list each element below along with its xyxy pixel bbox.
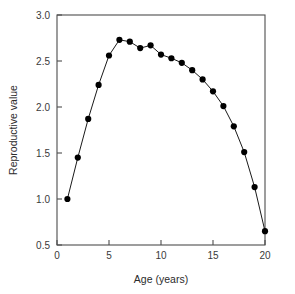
data-point [168,55,174,61]
data-point [106,52,112,58]
data-point [231,123,237,129]
chart-figure: 0.51.01.52.02.53.0 05101520 Reproductive… [0,0,295,294]
data-point [200,76,206,82]
y-tick-label: 3.0 [36,10,50,21]
data-point [85,116,91,122]
data-point [241,149,247,155]
data-point [148,42,154,48]
data-point [137,45,143,51]
data-point [179,60,185,66]
y-tick-label: 2.5 [36,56,50,67]
y-tick-label: 1.0 [36,194,50,205]
y-axis-title: Reproductive value [7,85,19,175]
data-point [262,228,268,234]
data-point [127,39,133,45]
data-point [210,88,216,94]
data-point [75,155,81,161]
x-tick-label: 0 [54,250,60,261]
x-tick-label: 15 [207,250,219,261]
y-tick-label: 0.5 [36,240,50,251]
y-tick-label: 1.5 [36,148,50,159]
x-tick-label: 10 [155,250,167,261]
data-series-line [67,40,265,231]
x-axis-title: Age (years) [134,273,188,285]
reproductive-value-line-chart: 0.51.01.52.02.53.0 05101520 Reproductive… [0,0,295,294]
data-point [64,196,70,202]
data-point [220,103,226,109]
x-tick-label: 20 [259,250,271,261]
data-point [189,67,195,73]
x-axis-tick-labels: 05101520 [54,250,271,261]
data-point [116,37,122,43]
x-tick-label: 5 [106,250,112,261]
plot-frame [57,15,265,245]
y-tick-label: 2.0 [36,102,50,113]
axis-tick-marks [57,15,265,245]
data-point [158,51,164,57]
data-point [252,184,258,190]
y-axis-tick-labels: 0.51.01.52.02.53.0 [36,10,50,251]
data-point [96,82,102,88]
